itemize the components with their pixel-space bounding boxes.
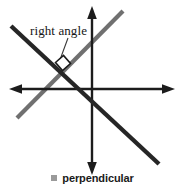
x-axis-right-arrow-icon: [162, 84, 175, 94]
geometry-diagram: [0, 0, 185, 191]
perpendicular-figure: right angle perpendicular: [0, 0, 185, 191]
figure-caption: perpendicular: [0, 172, 185, 184]
y-axis-top-arrow-icon: [87, 6, 97, 19]
caption-bullet-icon: [51, 175, 57, 181]
caption-text: perpendicular: [62, 172, 133, 184]
right-angle-label: right angle: [30, 23, 87, 38]
x-axis-left-arrow-icon: [9, 84, 22, 94]
